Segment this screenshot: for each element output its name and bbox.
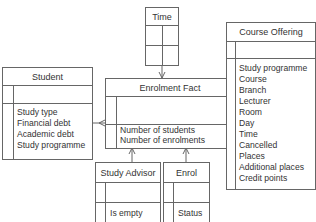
attribute-row: Study type Financial debt Academic debt … (3, 104, 92, 159)
attribute: Study programme (239, 63, 315, 74)
key-row (146, 26, 178, 46)
entity-study-advisor[interactable]: Study Advisor Is empty (95, 162, 161, 222)
key-row (164, 183, 209, 203)
entity-title: Study Advisor (96, 163, 160, 183)
key-row (106, 97, 234, 125)
attribute: Room (239, 107, 315, 118)
attribute: Status (178, 208, 209, 219)
entity-student[interactable]: Student Study type Financial debt Academ… (2, 67, 93, 160)
attribute: Study type (17, 107, 92, 118)
attribute: Financial debt (17, 118, 92, 129)
entity-enrol[interactable]: Enrol Status (163, 162, 210, 222)
attribute-row: Study programme Course Branch Lecturer R… (227, 59, 315, 189)
attribute: Time (239, 129, 315, 140)
entity-time[interactable]: Time (145, 7, 179, 66)
attribute: Number of students (120, 125, 234, 135)
attribute-row: Number of students Number of enrolments (106, 125, 234, 148)
attribute: Lecturer (239, 96, 315, 107)
attribute: Course (239, 74, 315, 85)
attribute: Places (239, 151, 315, 162)
entity-enrolment-fact[interactable]: Enrolment Fact Number of students Number… (105, 78, 235, 149)
entity-title: Time (146, 8, 178, 26)
attribute: Is empty (110, 208, 160, 219)
attribute: Day (239, 118, 315, 129)
attribute: Academic debt (17, 129, 92, 140)
entity-course-offering[interactable]: Course Offering Study programme Course B… (226, 22, 316, 190)
key-row (3, 86, 92, 104)
attribute: Additional places (239, 162, 315, 173)
attribute-row: Status (164, 203, 209, 222)
attribute: Study programme (17, 140, 92, 151)
attribute-row (146, 46, 178, 65)
key-row (227, 42, 315, 59)
attribute: Credit points (239, 173, 315, 184)
attribute-row: Is empty (96, 203, 160, 222)
entity-title: Student (3, 68, 92, 86)
entity-title: Enrolment Fact (106, 79, 234, 97)
entity-title: Enrol (164, 163, 209, 183)
attribute: Branch (239, 85, 315, 96)
key-row (96, 183, 160, 203)
attribute: Cancelled (239, 140, 315, 151)
entity-title: Course Offering (227, 23, 315, 42)
attribute: Number of enrolments (120, 135, 234, 145)
